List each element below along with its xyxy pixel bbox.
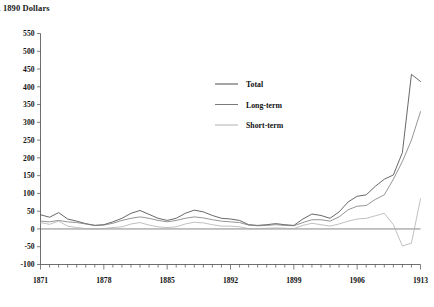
y-tick-label: 450	[23, 65, 35, 74]
y-tick-label: 0	[31, 225, 35, 234]
y-tick-label: 500	[23, 47, 35, 56]
y-axis-ticks: -100-50050100150200250300350400450500550	[21, 29, 41, 269]
x-tick-label: 1892	[223, 276, 238, 285]
chart-container: -100-50050100150200250300350400450500550…	[0, 0, 434, 307]
legend-label-long-term: Long-term	[246, 101, 282, 110]
x-tick-label: 1899	[286, 276, 301, 285]
y-tick-label: 150	[23, 171, 35, 180]
y-tick-label: 250	[23, 136, 35, 145]
data-series-group	[41, 74, 421, 246]
chart-legend: TotalLong-termShort-term	[215, 80, 284, 130]
x-tick-label: 1913	[413, 276, 428, 285]
y-tick-label: 50	[27, 207, 35, 216]
y-tick-label: 400	[23, 83, 35, 92]
x-tick-label: 1878	[96, 276, 111, 285]
y-tick-label: 100	[23, 189, 35, 198]
x-tick-label: 1871	[33, 276, 48, 285]
y-tick-label: 200	[23, 154, 35, 163]
y-tick-label: 350	[23, 100, 35, 109]
y-tick-label: -100	[21, 260, 35, 269]
legend-label-short-term: Short-term	[246, 121, 284, 130]
legend-label-total: Total	[246, 80, 264, 89]
line-chart: -100-50050100150200250300350400450500550…	[0, 0, 434, 307]
y-tick-label: 300	[23, 118, 35, 127]
y-tick-label: -50	[24, 242, 34, 251]
x-tick-label: 1906	[350, 276, 365, 285]
series-line-long-term	[41, 112, 421, 226]
x-axis-ticks: 1871187818851892189919061913	[33, 265, 428, 285]
x-tick-label: 1885	[160, 276, 175, 285]
y-tick-label: 550	[23, 29, 35, 38]
series-line-total	[41, 74, 421, 225]
